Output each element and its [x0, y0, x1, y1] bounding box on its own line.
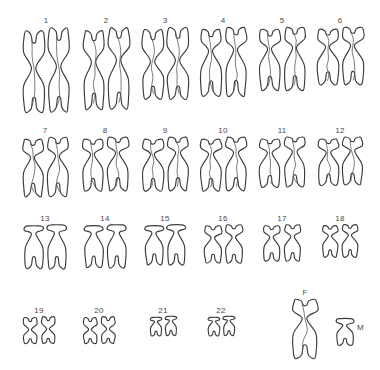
chromosome-x[interactable] [292, 298, 318, 360]
chromosome-pair[interactable] [70, 316, 128, 344]
chromosome-group-13[interactable]: 13 [16, 214, 74, 270]
chromosome-pair[interactable] [10, 316, 68, 344]
chromosome-pair[interactable] [136, 136, 194, 192]
chromatid-13-1[interactable] [24, 225, 44, 270]
chromatid-19-1[interactable] [23, 317, 37, 344]
chromatid-14-2[interactable] [107, 224, 127, 269]
chromosome-group-x[interactable]: F [292, 288, 318, 360]
chromatid-20-2[interactable] [101, 316, 115, 344]
chromatid-10-1[interactable] [200, 138, 222, 192]
chromosome-y[interactable] [336, 318, 354, 346]
chromatid-15-1[interactable] [145, 225, 164, 266]
chromosome-pair[interactable] [16, 136, 74, 198]
chromatid-5-1[interactable] [259, 28, 281, 92]
chromosome-group-y[interactable]: M [336, 318, 364, 346]
chromosome-group-18[interactable]: 18 [312, 214, 368, 258]
chromosome-pair[interactable] [254, 26, 310, 92]
chromosome-group-label: 14 [76, 214, 134, 224]
chromosome-group-label: 10 [194, 126, 252, 136]
chromatid-3-2[interactable] [167, 26, 189, 101]
chromatid-6-2[interactable] [342, 26, 364, 86]
chromosome-pair[interactable] [194, 136, 252, 192]
chromosome-group-3[interactable]: 3 [136, 16, 194, 101]
chromatid-7-2[interactable] [47, 136, 69, 198]
chromatid-3-1[interactable] [142, 28, 164, 101]
chromatid-10-2[interactable] [225, 136, 247, 192]
chromatid-2-2[interactable] [108, 26, 130, 111]
chromosome-group-12[interactable]: 12 [312, 126, 368, 186]
chromosome-pair[interactable] [254, 224, 310, 262]
chromatid-12-1[interactable] [318, 138, 339, 187]
chromatid-16-2[interactable] [225, 224, 243, 264]
chromosome-group-11[interactable]: 11 [254, 126, 310, 188]
chromatid-1-2[interactable] [48, 26, 70, 114]
chromosome-group-label: 16 [194, 214, 252, 224]
chromosome-group-label: 11 [254, 126, 310, 136]
chromatid-8-2[interactable] [107, 136, 129, 192]
chromosome-group-8[interactable]: 8 [76, 126, 134, 192]
chromosome-group-1[interactable]: 1 [16, 16, 76, 114]
chromosome-pair[interactable] [16, 26, 76, 114]
chromosome-pair[interactable] [312, 224, 368, 258]
chromosome-group-20[interactable]: 20 [70, 306, 128, 344]
chromatid-22-1[interactable] [208, 317, 220, 336]
chromosome-pair[interactable] [76, 224, 134, 269]
chromatid-9-1[interactable] [142, 138, 164, 192]
chromatid-2-1[interactable] [83, 29, 105, 111]
chromosome-group-9[interactable]: 9 [136, 126, 194, 192]
chromosome-group-label: 2 [76, 16, 136, 26]
chromosome-group-21[interactable]: 21 [134, 306, 192, 336]
chromatid-18-2[interactable] [342, 224, 358, 258]
chromatid-18-1[interactable] [322, 225, 338, 258]
chromosome-group-2[interactable]: 2 [76, 16, 136, 111]
chromatid-21-2[interactable] [165, 316, 177, 336]
chromosome-pair[interactable] [76, 26, 136, 111]
chromosome-group-6[interactable]: 6 [312, 16, 368, 86]
chromatid-5-2[interactable] [284, 26, 306, 92]
chromosome-group-14[interactable]: 14 [76, 214, 134, 269]
chromosome-group-5[interactable]: 5 [254, 16, 310, 92]
chromosome-label-f: F [292, 288, 318, 298]
chromatid-22-2[interactable] [223, 316, 235, 336]
chromosome-group-16[interactable]: 16 [194, 214, 252, 264]
chromatid-12-2[interactable] [342, 136, 363, 186]
chromatid-21-1[interactable] [150, 317, 162, 336]
chromatid-7-1[interactable] [22, 138, 44, 198]
chromosome-group-label: 7 [16, 126, 74, 136]
chromosome-group-label: 6 [312, 16, 368, 26]
chromosome-pair[interactable] [16, 224, 74, 270]
chromatid-17-2[interactable] [284, 224, 301, 262]
chromosome-pair[interactable] [194, 26, 252, 98]
chromatid-15-2[interactable] [167, 224, 186, 266]
chromatid-11-2[interactable] [284, 136, 306, 188]
chromosome-group-15[interactable]: 15 [136, 214, 194, 266]
chromosome-group-4[interactable]: 4 [194, 16, 252, 98]
chromatid-14-1[interactable] [84, 225, 104, 269]
chromatid-4-1[interactable] [200, 28, 222, 98]
chromatid-16-1[interactable] [204, 225, 222, 264]
chromosome-group-7[interactable]: 7 [16, 126, 74, 198]
chromosome-group-22[interactable]: 22 [192, 306, 250, 336]
chromosome-pair[interactable] [194, 224, 252, 264]
chromatid-20-1[interactable] [83, 317, 97, 344]
chromosome-pair[interactable] [312, 136, 368, 186]
chromatid-19-2[interactable] [41, 316, 55, 344]
chromatid-6-1[interactable] [317, 28, 339, 86]
chromosome-pair[interactable] [76, 136, 134, 192]
chromosome-pair[interactable] [192, 316, 250, 336]
chromatid-9-2[interactable] [167, 136, 189, 192]
chromatid-13-2[interactable] [47, 224, 67, 270]
chromosome-group-19[interactable]: 19 [10, 306, 68, 344]
chromatid-4-2[interactable] [225, 26, 247, 98]
chromosome-pair[interactable] [312, 26, 368, 86]
chromosome-pair[interactable] [136, 26, 194, 101]
chromosome-pair[interactable] [134, 316, 192, 336]
chromosome-pair[interactable] [136, 224, 194, 266]
chromosome-pair[interactable] [254, 136, 310, 188]
chromatid-11-1[interactable] [259, 138, 281, 188]
chromatid-1-1[interactable] [23, 29, 45, 114]
chromatid-8-1[interactable] [82, 138, 104, 192]
chromosome-group-10[interactable]: 10 [194, 126, 252, 192]
chromosome-group-17[interactable]: 17 [254, 214, 310, 262]
chromatid-17-1[interactable] [263, 225, 280, 262]
